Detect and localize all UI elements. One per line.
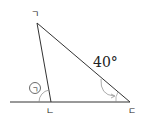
labels-layer: ㄱ ㄴ ㄷ 40° ㄱ (0, 0, 148, 125)
vertex-label-ga: ㄱ (31, 9, 39, 19)
angle-40-label: 40° (93, 54, 118, 70)
vertex-label-da: ㄷ (128, 106, 136, 116)
vertex-label-na: ㄴ (46, 106, 54, 116)
unknown-angle-label: ㄱ (32, 86, 38, 94)
